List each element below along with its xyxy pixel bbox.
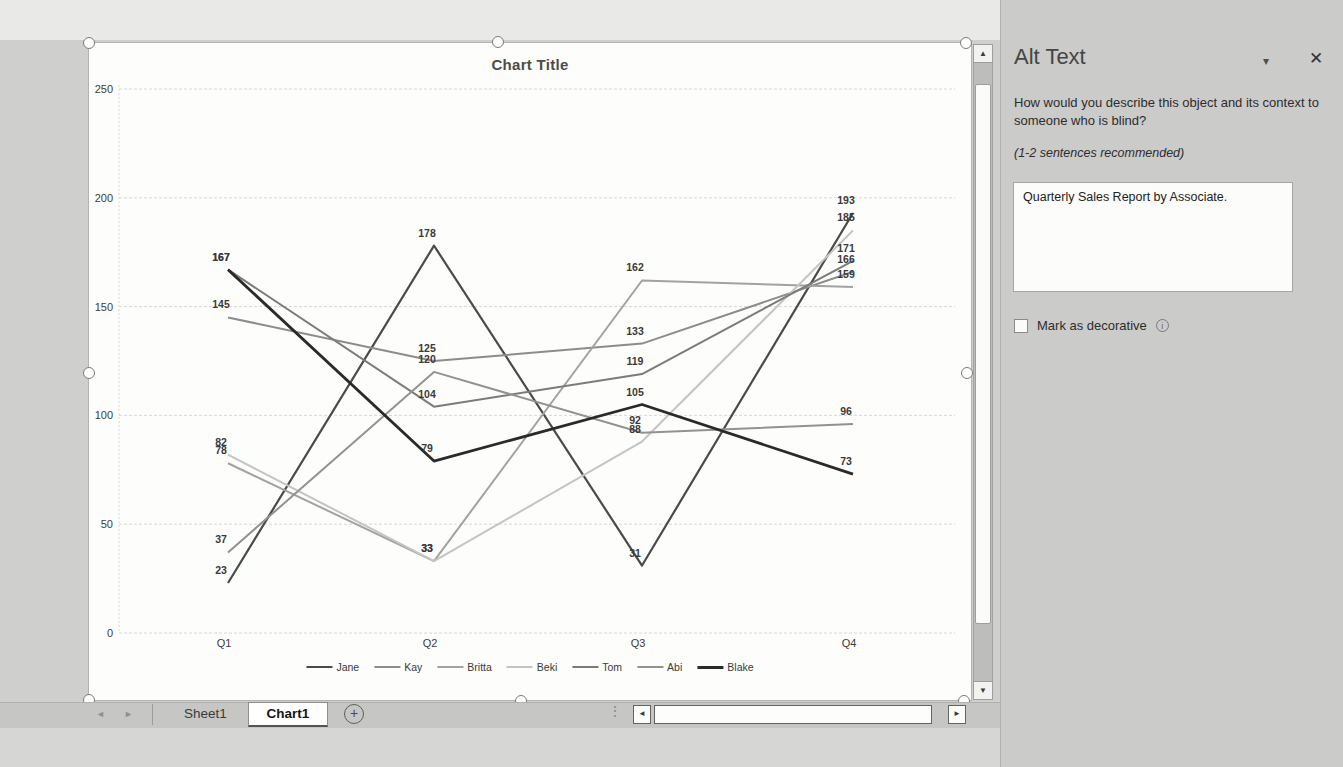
legend-line-swatch — [637, 666, 663, 668]
legend-line-swatch — [306, 666, 332, 668]
x-axis-tick: Q2 — [423, 637, 438, 649]
legend-label: Blake — [727, 661, 753, 673]
data-label: 120 — [418, 353, 436, 365]
selection-handle-mid-right[interactable] — [961, 367, 973, 379]
x-axis-tick: Q1 — [217, 637, 232, 649]
series-line-blake — [228, 270, 853, 475]
data-label: 82 — [215, 436, 227, 448]
data-label: 133 — [626, 325, 644, 337]
line-chart: 050100150200250Q1Q2Q3Q423178311931451251… — [89, 43, 971, 700]
series-line-abi — [228, 372, 853, 553]
x-axis-tick: Q4 — [842, 637, 857, 649]
legend-line-swatch — [697, 666, 723, 669]
data-label: 37 — [215, 533, 227, 545]
selection-handle-top-right[interactable] — [960, 37, 972, 49]
y-axis-tick: 200 — [95, 192, 113, 204]
right-arrow-icon: ► — [949, 706, 965, 722]
left-arrow-icon: ◄ — [634, 706, 650, 722]
legend-label: Britta — [467, 661, 492, 673]
pane-menu-chevron-down-icon[interactable]: ▾ — [1263, 54, 1269, 68]
alt-text-description-input[interactable]: Quarterly Sales Report by Associate. — [1013, 182, 1293, 292]
data-label: 159 — [837, 268, 855, 280]
data-label: 79 — [421, 442, 433, 454]
legend-line-swatch — [437, 666, 463, 668]
chart-legend[interactable]: JaneKayBrittaBekiTomAbiBlake — [306, 661, 753, 673]
data-labels: 2317831193145125133166783316215982338818… — [212, 194, 855, 576]
data-label: 31 — [629, 547, 641, 559]
legend-label: Kay — [404, 661, 422, 673]
legend-item-abi[interactable]: Abi — [637, 661, 682, 673]
data-label: 145 — [212, 298, 230, 310]
data-label: 171 — [837, 242, 855, 254]
scroll-right-button[interactable]: ► — [948, 705, 966, 724]
selection-handle-top-left[interactable] — [83, 37, 95, 49]
data-label: 193 — [837, 194, 855, 206]
legend-item-tom[interactable]: Tom — [572, 661, 622, 673]
legend-item-kay[interactable]: Kay — [374, 661, 422, 673]
legend-item-beki[interactable]: Beki — [507, 661, 557, 673]
data-label: 167 — [212, 251, 230, 263]
data-label: 73 — [840, 455, 852, 467]
data-label: 162 — [626, 261, 644, 273]
series-line-jane — [228, 213, 853, 583]
series-line-kay — [228, 272, 853, 361]
y-axis-tick: 100 — [95, 409, 113, 421]
tab-chart1-active[interactable]: Chart1 — [248, 702, 328, 727]
chart-object[interactable]: Chart Title 050100150200250Q1Q2Q3Q423178… — [88, 42, 972, 701]
legend-item-britta[interactable]: Britta — [437, 661, 492, 673]
legend-label: Jane — [336, 661, 359, 673]
bottom-margin — [0, 728, 1000, 767]
chart-title[interactable]: Chart Title — [89, 56, 971, 73]
legend-label: Beki — [537, 661, 557, 673]
new-sheet-button[interactable]: + — [344, 704, 364, 724]
info-icon[interactable]: i — [1156, 319, 1169, 332]
data-label: 92 — [629, 414, 641, 426]
alt-text-question: How would you describe this object and i… — [1014, 94, 1322, 130]
y-axis-tick: 250 — [95, 83, 113, 95]
y-axis-tick: 50 — [101, 518, 113, 530]
down-arrow-icon: ▼ — [974, 682, 992, 699]
legend-item-jane[interactable]: Jane — [306, 661, 359, 673]
tab-sheet1[interactable]: Sheet1 — [170, 706, 241, 721]
data-label: 23 — [215, 564, 227, 576]
series-line-tom — [228, 261, 853, 407]
series-line-britta — [228, 280, 853, 561]
vertical-scrollbar-thumb[interactable] — [975, 84, 991, 624]
data-label: 104 — [418, 388, 436, 400]
tab-separator — [152, 704, 153, 725]
scroll-up-button[interactable]: ▲ — [973, 44, 993, 63]
selection-handle-top-center[interactable] — [492, 36, 504, 48]
next-sheet-icon[interactable]: ► — [124, 709, 133, 719]
horizontal-scrollbar-thumb[interactable] — [654, 705, 932, 724]
scroll-left-button[interactable]: ◄ — [633, 705, 651, 724]
legend-line-swatch — [374, 666, 400, 668]
up-arrow-icon: ▲ — [974, 45, 992, 62]
mark-decorative-label: Mark as decorative — [1037, 318, 1147, 333]
alt-text-pane: Alt Text ▾ ✕ How would you describe this… — [1000, 0, 1343, 767]
series-line-beki — [228, 230, 853, 561]
top-margin — [0, 0, 1000, 40]
y-axis-tick: 0 — [107, 627, 113, 639]
selection-handle-mid-left[interactable] — [83, 367, 95, 379]
data-label: 185 — [837, 211, 855, 223]
legend-item-blake[interactable]: Blake — [697, 661, 753, 673]
x-axis-tick: Q3 — [631, 637, 646, 649]
data-label: 105 — [626, 386, 644, 398]
pane-close-icon[interactable]: ✕ — [1309, 48, 1323, 69]
excel-workbook-area: Chart Title 050100150200250Q1Q2Q3Q423178… — [0, 0, 1000, 767]
alt-text-hint: (1-2 sentences recommended) — [1014, 146, 1184, 160]
scroll-down-button[interactable]: ▼ — [973, 681, 993, 700]
data-label: 119 — [627, 355, 644, 367]
data-label: 33 — [421, 542, 433, 554]
mark-decorative-row: Mark as decorative i — [1014, 318, 1169, 333]
data-label: 178 — [418, 227, 436, 239]
mark-decorative-checkbox[interactable] — [1014, 319, 1028, 333]
legend-label: Abi — [667, 661, 682, 673]
legend-label: Tom — [602, 661, 622, 673]
legend-line-swatch — [572, 666, 598, 668]
prev-sheet-icon[interactable]: ◄ — [96, 709, 105, 719]
legend-line-swatch — [507, 666, 533, 668]
scrollbar-resize-grip-icon[interactable]: ⋮ — [608, 703, 622, 719]
y-axis-tick: 150 — [95, 301, 113, 313]
pane-title: Alt Text — [1014, 44, 1086, 70]
